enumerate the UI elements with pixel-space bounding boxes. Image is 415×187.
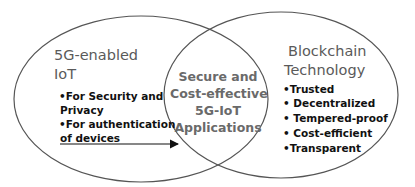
right-bullet-2: • Decentralized xyxy=(283,96,375,110)
right-set-title-line1: Blockchain xyxy=(288,42,366,60)
right-bullet-3: • Tempered-proof xyxy=(283,111,388,125)
left-set-title-line1: 5G-enabled xyxy=(54,46,138,64)
right-bullet-5: •Transparent xyxy=(283,141,361,155)
left-bullet-2-line2: of devices xyxy=(60,131,120,145)
right-set-title-line2: Technology xyxy=(284,61,365,79)
left-set-title-line2: IoT xyxy=(54,65,76,83)
intersection-line-3: 5G-IoT xyxy=(170,102,266,119)
left-bullet-1-line2: Privacy xyxy=(60,103,103,117)
intersection-line-4: Applications xyxy=(170,119,266,136)
intersection-line-1: Secure and xyxy=(170,68,266,85)
intersection-line-2: Cost-effective xyxy=(170,85,266,102)
left-bullet-1-line1: •For Security and xyxy=(59,89,163,103)
right-bullet-4: • Cost-efficient xyxy=(283,126,372,140)
right-bullet-1: •Trusted xyxy=(283,82,334,96)
left-bullet-2-line1: •For authentication xyxy=(59,117,175,131)
